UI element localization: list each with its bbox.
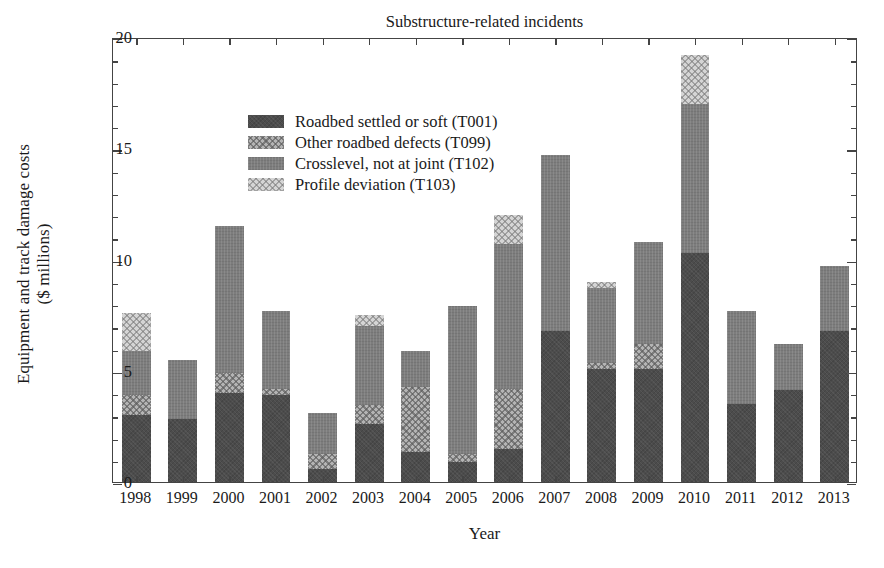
bar-segment-t099 <box>355 405 384 424</box>
x-tick <box>648 476 649 482</box>
x-tick-top <box>276 39 277 45</box>
bar-segment-t099 <box>448 454 477 462</box>
x-tick <box>183 476 184 482</box>
legend-swatch-t001-icon <box>248 115 284 128</box>
y-tick-minor-right <box>851 106 856 107</box>
bar-segment-t102 <box>355 326 384 405</box>
bar-segment-t001 <box>541 331 570 482</box>
bar-2003 <box>355 315 384 482</box>
legend-swatch-t102-icon <box>248 157 284 170</box>
x-tick <box>555 476 556 482</box>
y-tick-minor <box>113 106 118 107</box>
y-tick-label: 20 <box>92 28 132 48</box>
chart-figure: Substructure-related incidents Equipment… <box>0 0 884 568</box>
bar-segment-t102 <box>634 242 663 344</box>
y-tick-minor-right <box>851 284 856 285</box>
y-tick-minor <box>113 84 118 85</box>
x-tick-top <box>323 39 324 45</box>
bar-2000 <box>215 226 244 482</box>
bar-2006 <box>494 215 523 482</box>
y-tick-minor-right <box>851 395 856 396</box>
y-axis-title-line1: Equipment and track damage costs <box>14 144 33 384</box>
bar-segment-t102 <box>308 413 337 454</box>
bar-segment-t001 <box>215 393 244 482</box>
bar-2008 <box>587 282 616 482</box>
y-tick-minor-right <box>851 417 856 418</box>
bar-segment-t103 <box>122 313 151 351</box>
bar-2005 <box>448 306 477 482</box>
x-tick <box>742 476 743 482</box>
x-tick <box>462 476 463 482</box>
x-tick <box>416 476 417 482</box>
bar-segment-t001 <box>168 419 197 482</box>
y-tick-minor-right <box>851 328 856 329</box>
bar-segment-t103 <box>355 315 384 326</box>
bar-segment-t001 <box>355 424 384 482</box>
y-tick-minor-right <box>851 195 856 196</box>
x-tick-top <box>742 39 743 45</box>
legend-item: Profile deviation (T103) <box>248 174 498 195</box>
legend-label-t102: Crosslevel, not at joint (T102) <box>295 154 494 174</box>
x-tick <box>323 476 324 482</box>
bar-segment-t099 <box>122 395 151 415</box>
x-tick-label-2013: 2013 <box>804 489 864 507</box>
y-tick-major-right <box>847 39 856 40</box>
x-tick-top <box>416 39 417 45</box>
y-tick-minor <box>113 61 118 62</box>
bar-segment-t099 <box>587 363 616 369</box>
bar-segment-t099 <box>308 454 337 468</box>
bar-2001 <box>262 311 291 482</box>
legend-item: Crosslevel, not at joint (T102) <box>248 153 498 174</box>
y-tick-minor <box>113 328 118 329</box>
y-tick-minor <box>113 306 118 307</box>
bar-segment-t001 <box>262 395 291 482</box>
y-tick-minor <box>113 217 118 218</box>
y-tick-label: 10 <box>92 251 132 271</box>
x-tick-top <box>229 39 230 45</box>
x-tick <box>229 476 230 482</box>
x-tick <box>835 476 836 482</box>
bar-2009 <box>634 242 663 482</box>
y-tick-label: 15 <box>92 139 132 159</box>
chart-legend: Roadbed settled or soft (T001) Other roa… <box>248 111 498 195</box>
bar-segment-t102 <box>494 244 523 389</box>
y-tick-minor <box>113 128 118 129</box>
bar-2007 <box>541 155 570 482</box>
bar-segment-t001 <box>820 331 849 482</box>
x-tick <box>369 476 370 482</box>
bar-segment-t103 <box>494 215 523 244</box>
bar-segment-t102 <box>168 360 197 419</box>
y-axis-title-line2: ($ millions) <box>34 54 54 474</box>
x-tick-top <box>648 39 649 45</box>
bar-2012 <box>774 344 803 482</box>
bar-segment-t103 <box>587 282 616 289</box>
bar-segment-t102 <box>587 288 616 363</box>
bar-segment-t001 <box>634 369 663 482</box>
bar-segment-t102 <box>262 311 291 389</box>
x-tick-top <box>835 39 836 45</box>
plot-area: Roadbed settled or soft (T001) Other roa… <box>112 38 857 483</box>
x-tick-top <box>788 39 789 45</box>
x-tick-top <box>369 39 370 45</box>
y-tick-minor-right <box>851 217 856 218</box>
y-tick-minor-right <box>851 306 856 307</box>
y-tick-minor-right <box>851 128 856 129</box>
x-tick <box>276 476 277 482</box>
y-tick-major-right <box>847 150 856 151</box>
bar-2011 <box>727 311 756 482</box>
legend-item: Roadbed settled or soft (T001) <box>248 111 498 132</box>
x-tick <box>602 476 603 482</box>
bar-segment-t099 <box>262 389 291 396</box>
x-tick-top <box>509 39 510 45</box>
y-tick-minor-right <box>851 440 856 441</box>
x-tick-top <box>462 39 463 45</box>
bar-segment-t001 <box>122 415 151 482</box>
chart-title: Substructure-related incidents <box>112 12 857 32</box>
y-tick-minor-right <box>851 351 856 352</box>
bar-segment-t099 <box>401 387 430 452</box>
y-tick-minor <box>113 173 118 174</box>
x-axis-title: Year <box>112 524 857 544</box>
bar-segment-t102 <box>727 311 756 404</box>
y-tick-major-right <box>847 484 856 485</box>
bar-2004 <box>401 351 430 482</box>
